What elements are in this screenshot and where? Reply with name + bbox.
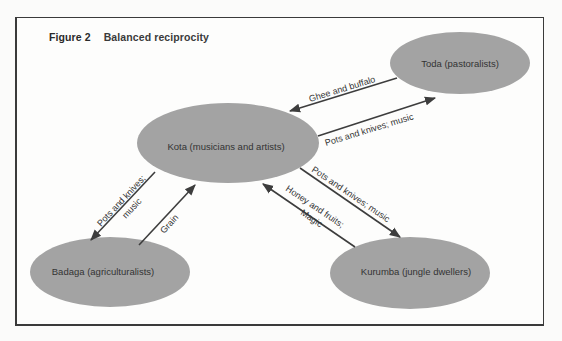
node-kota-label: Kota (musicians and artists) <box>167 141 284 152</box>
node-toda: Toda (pastoralists) <box>390 32 530 94</box>
edge-kota-to-badaga: Pots and knives; music <box>91 172 155 240</box>
edge-label-grain: Grain <box>158 212 180 235</box>
node-badaga-label: Badaga (agriculturalists) <box>52 266 154 277</box>
node-kurumba: Kurumba (jungle dwellers) <box>330 237 490 309</box>
edge-label-ghee-buffalo: Ghee and buffalo <box>308 74 377 104</box>
node-toda-label: Toda (pastoralists) <box>421 58 499 69</box>
node-kurumba-label: Kurumba (jungle dwellers) <box>361 266 471 277</box>
edge-badaga-to-kota: Grain <box>139 185 195 245</box>
node-kota: Kota (musicians and artists) <box>137 103 319 183</box>
node-badaga: Badaga (agriculturalists) <box>30 237 190 307</box>
reciprocity-diagram: Toda (pastoralists) Kota (musicians and … <box>0 0 562 341</box>
edge-toda-to-kota: Ghee and buffalo <box>290 74 397 111</box>
edge-kota-to-toda: Pots and knives; music <box>318 98 435 148</box>
